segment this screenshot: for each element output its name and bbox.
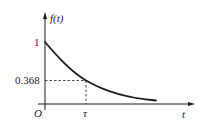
origin-label: O [34,107,42,119]
exponential-decay-chart: f(t) 1 0.368 O τ t [0,0,205,127]
y-axis-label: f(t) [50,12,64,25]
x-axis-arrow-icon [188,102,195,106]
y-axis-arrow-icon [43,12,47,19]
y-tick-0368: 0.368 [15,74,40,86]
x-tick-tau: τ [83,107,88,119]
decay-curve [45,42,156,101]
x-axis-label: t [182,108,186,120]
y-tick-1: 1 [34,36,40,48]
